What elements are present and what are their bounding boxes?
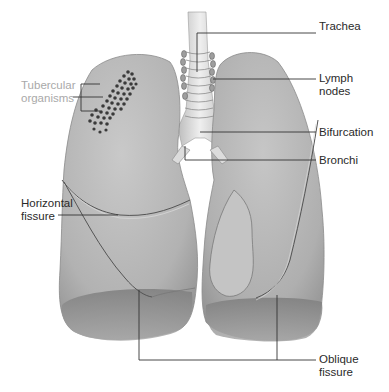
label-horizontal-fissure: Horizontal fissure [21, 197, 73, 222]
label-oblique-fissure: Oblique fissure [319, 353, 359, 378]
lung-illustration [0, 0, 389, 392]
bronchi [172, 146, 228, 164]
label-tubercular-organisms: Tubercular organisms [21, 79, 76, 104]
label-bronchi: Bronchi [319, 154, 358, 167]
label-bifurcation: Bifurcation [319, 126, 373, 139]
left-lung [202, 53, 324, 342]
label-trachea: Trachea [319, 20, 361, 33]
label-lymph-nodes: Lymph nodes [319, 72, 353, 97]
